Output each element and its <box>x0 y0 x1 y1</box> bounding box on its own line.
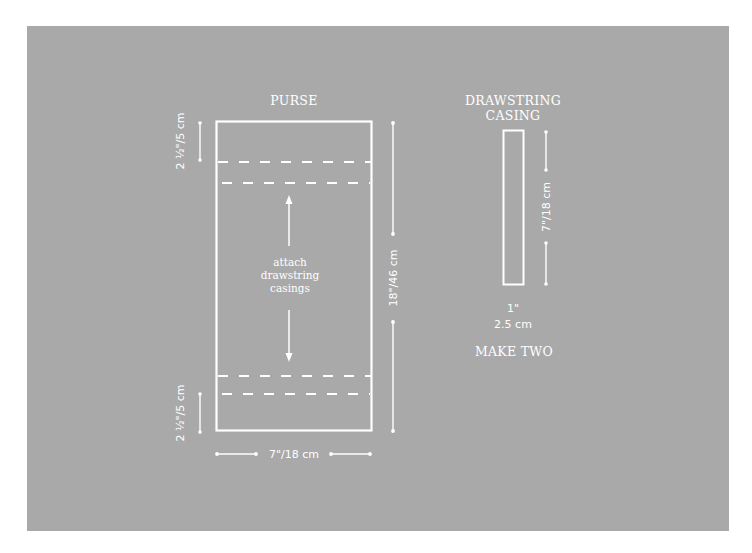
arrow-up-icon <box>286 195 293 246</box>
sewing-pattern-canvas: PURSE attach drawstring casings 2 ½"/5 c… <box>0 0 752 553</box>
casing-length-dimension: 7"/18 cm <box>540 130 553 286</box>
casing-width-metric: 2.5 cm <box>494 318 532 331</box>
casing-length-label: 7"/18 cm <box>540 182 553 232</box>
casing-width-imperial: 1" <box>507 302 519 315</box>
height-dimension: 18"/46 cm <box>387 121 400 433</box>
attach-label-line1: attach <box>273 256 307 268</box>
attach-label-line3: casings <box>270 282 310 294</box>
top-hem-label: 2 ½"/5 cm <box>174 112 187 169</box>
bottom-hem-label: 2 ½"/5 cm <box>174 384 187 441</box>
attach-label-line2: drawstring <box>261 269 320 281</box>
casing-title-line2: CASING <box>486 108 541 123</box>
width-dimension: 7"/18 cm <box>215 448 372 461</box>
height-label: 18"/46 cm <box>387 249 400 306</box>
bottom-hem-dimension: 2 ½"/5 cm <box>174 384 202 441</box>
casing-title-line1: DRAWSTRING <box>465 93 561 108</box>
casing-outline <box>504 131 524 285</box>
pattern-diagram: PURSE attach drawstring casings 2 ½"/5 c… <box>0 0 752 553</box>
width-label: 7"/18 cm <box>269 448 319 461</box>
make-two-note: MAKE TWO <box>475 344 553 359</box>
purse-title: PURSE <box>270 93 317 108</box>
arrow-down-icon <box>286 310 293 362</box>
top-hem-dimension: 2 ½"/5 cm <box>174 112 202 169</box>
